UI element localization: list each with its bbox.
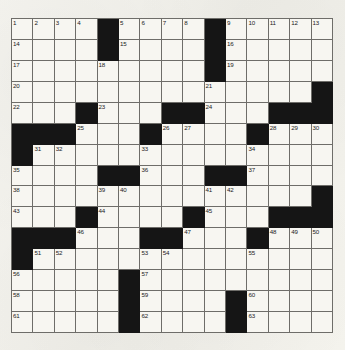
crossword-cell[interactable] <box>162 312 183 333</box>
crossword-cell[interactable]: 43 <box>12 207 33 228</box>
crossword-cell[interactable] <box>247 186 268 207</box>
crossword-cell[interactable] <box>162 82 183 103</box>
crossword-cell[interactable] <box>226 207 247 228</box>
crossword-cell[interactable] <box>55 166 76 187</box>
crossword-cell[interactable]: 4 <box>76 19 97 40</box>
crossword-cell[interactable] <box>119 145 140 166</box>
crossword-cell[interactable]: 60 <box>247 291 268 312</box>
crossword-cell[interactable] <box>98 82 119 103</box>
crossword-cell[interactable]: 5 <box>119 19 140 40</box>
crossword-cell[interactable] <box>76 82 97 103</box>
crossword-cell[interactable] <box>269 145 290 166</box>
crossword-cell[interactable]: 8 <box>183 19 204 40</box>
crossword-cell[interactable] <box>247 270 268 291</box>
crossword-cell[interactable] <box>269 249 290 270</box>
crossword-cell[interactable] <box>55 312 76 333</box>
crossword-cell[interactable] <box>290 312 311 333</box>
crossword-cell[interactable] <box>247 61 268 82</box>
crossword-cell[interactable]: 31 <box>33 145 54 166</box>
crossword-cell[interactable]: 12 <box>290 19 311 40</box>
crossword-cell[interactable] <box>98 228 119 249</box>
crossword-cell[interactable] <box>119 207 140 228</box>
crossword-cell[interactable] <box>205 249 226 270</box>
crossword-cell[interactable]: 14 <box>12 40 33 61</box>
crossword-cell[interactable]: 46 <box>76 228 97 249</box>
crossword-cell[interactable] <box>226 145 247 166</box>
crossword-cell[interactable] <box>55 186 76 207</box>
crossword-cell[interactable]: 24 <box>205 103 226 124</box>
crossword-cell[interactable] <box>269 186 290 207</box>
crossword-cell[interactable] <box>76 291 97 312</box>
crossword-cell[interactable] <box>269 166 290 187</box>
crossword-cell[interactable] <box>119 103 140 124</box>
crossword-cell[interactable] <box>312 312 333 333</box>
crossword-cell[interactable] <box>33 207 54 228</box>
crossword-cell[interactable] <box>269 40 290 61</box>
crossword-cell[interactable] <box>76 61 97 82</box>
crossword-cell[interactable]: 63 <box>247 312 268 333</box>
crossword-cell[interactable] <box>119 61 140 82</box>
crossword-cell[interactable]: 50 <box>312 228 333 249</box>
crossword-cell[interactable] <box>290 166 311 187</box>
crossword-cell[interactable]: 19 <box>226 61 247 82</box>
crossword-cell[interactable]: 23 <box>98 103 119 124</box>
crossword-cell[interactable] <box>183 82 204 103</box>
crossword-cell[interactable]: 51 <box>33 249 54 270</box>
crossword-cell[interactable] <box>76 270 97 291</box>
crossword-cell[interactable] <box>205 312 226 333</box>
crossword-cell[interactable] <box>247 207 268 228</box>
crossword-cell[interactable]: 32 <box>55 145 76 166</box>
crossword-cell[interactable]: 16 <box>226 40 247 61</box>
crossword-cell[interactable] <box>183 145 204 166</box>
crossword-cell[interactable] <box>312 145 333 166</box>
crossword-cell[interactable] <box>226 249 247 270</box>
crossword-cell[interactable] <box>183 61 204 82</box>
crossword-cell[interactable] <box>269 291 290 312</box>
crossword-cell[interactable] <box>290 270 311 291</box>
crossword-cell[interactable] <box>247 82 268 103</box>
crossword-cell[interactable]: 27 <box>183 124 204 145</box>
crossword-cell[interactable]: 13 <box>312 19 333 40</box>
crossword-cell[interactable] <box>162 186 183 207</box>
crossword-cell[interactable]: 54 <box>162 249 183 270</box>
crossword-cell[interactable]: 56 <box>12 270 33 291</box>
crossword-cell[interactable]: 36 <box>140 166 161 187</box>
crossword-cell[interactable] <box>76 166 97 187</box>
crossword-cell[interactable] <box>290 249 311 270</box>
crossword-cell[interactable] <box>98 124 119 145</box>
crossword-cell[interactable] <box>98 270 119 291</box>
crossword-cell[interactable]: 28 <box>269 124 290 145</box>
crossword-cell[interactable] <box>55 207 76 228</box>
crossword-cell[interactable]: 48 <box>269 228 290 249</box>
crossword-cell[interactable]: 38 <box>12 186 33 207</box>
crossword-cell[interactable]: 47 <box>183 228 204 249</box>
crossword-cell[interactable] <box>247 103 268 124</box>
crossword-cell[interactable] <box>312 61 333 82</box>
crossword-cell[interactable] <box>55 103 76 124</box>
crossword-cell[interactable] <box>226 270 247 291</box>
crossword-cell[interactable] <box>162 291 183 312</box>
crossword-cell[interactable]: 52 <box>55 249 76 270</box>
crossword-cell[interactable] <box>33 61 54 82</box>
crossword-cell[interactable]: 18 <box>98 61 119 82</box>
crossword-cell[interactable]: 29 <box>290 124 311 145</box>
crossword-cell[interactable] <box>162 61 183 82</box>
crossword-cell[interactable] <box>76 186 97 207</box>
crossword-cell[interactable] <box>183 166 204 187</box>
crossword-cell[interactable] <box>226 124 247 145</box>
crossword-cell[interactable]: 10 <box>247 19 268 40</box>
crossword-cell[interactable] <box>290 82 311 103</box>
crossword-cell[interactable] <box>119 228 140 249</box>
crossword-cell[interactable]: 40 <box>119 186 140 207</box>
crossword-cell[interactable] <box>119 249 140 270</box>
crossword-cell[interactable] <box>140 40 161 61</box>
crossword-cell[interactable] <box>312 291 333 312</box>
crossword-cell[interactable]: 3 <box>55 19 76 40</box>
crossword-cell[interactable] <box>119 124 140 145</box>
crossword-cell[interactable]: 42 <box>226 186 247 207</box>
crossword-cell[interactable]: 55 <box>247 249 268 270</box>
crossword-cell[interactable] <box>55 40 76 61</box>
crossword-cell[interactable]: 61 <box>12 312 33 333</box>
crossword-cell[interactable] <box>183 312 204 333</box>
crossword-cell[interactable] <box>55 291 76 312</box>
